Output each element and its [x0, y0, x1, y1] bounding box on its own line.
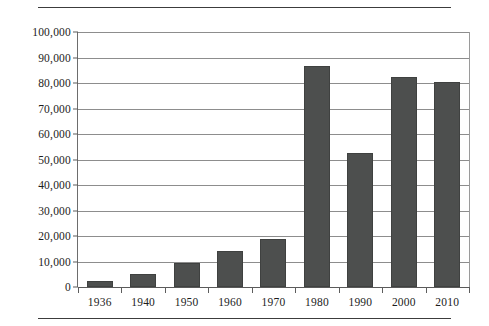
top-horizontal-rule: [38, 7, 451, 8]
x-axis-label: 2000: [392, 296, 416, 308]
y-axis-label: 10,000: [38, 256, 71, 268]
x-axis-tick: [121, 287, 122, 293]
bar-slot: [165, 32, 208, 287]
bar-slot: [382, 32, 425, 287]
y-axis-label: 30,000: [38, 205, 71, 217]
x-axis-tick: [382, 287, 383, 293]
y-axis-label: 80,000: [38, 77, 71, 89]
bar-slot: [339, 32, 382, 287]
bar: [130, 274, 156, 287]
bar: [347, 153, 373, 287]
x-axis-tick: [165, 287, 166, 293]
y-axis-label: 20,000: [38, 230, 71, 242]
y-axis-label: 60,000: [38, 128, 71, 140]
bar-slot: [78, 32, 121, 287]
y-axis-label: 70,000: [38, 103, 71, 115]
x-axis-tick: [208, 287, 209, 293]
x-axis-label: 1950: [175, 296, 199, 308]
y-axis-label: 90,000: [38, 52, 71, 64]
x-axis-label: 1980: [305, 296, 329, 308]
x-axis-tick: [426, 287, 427, 293]
bar: [391, 77, 417, 287]
bottom-horizontal-rule: [38, 318, 451, 319]
bars-group: [78, 32, 469, 287]
x-axis-tick: [469, 287, 470, 293]
bar: [434, 82, 460, 287]
bar: [217, 251, 243, 287]
bar: [87, 281, 113, 287]
x-axis-tick: [78, 287, 79, 293]
y-axis-label: 0: [65, 281, 71, 293]
x-axis-label: 1970: [262, 296, 286, 308]
y-axis-label: 100,000: [32, 26, 71, 38]
bar-slot: [208, 32, 251, 287]
bar: [260, 239, 286, 287]
x-axis-label: 1936: [88, 296, 112, 308]
bar-slot: [426, 32, 469, 287]
bar-slot: [121, 32, 164, 287]
bar: [304, 66, 330, 287]
bar: [174, 263, 200, 287]
chart-page: 010,00020,00030,00040,00050,00060,00070,…: [0, 0, 489, 326]
x-axis-label: 1940: [131, 296, 155, 308]
x-axis-label: 1960: [218, 296, 242, 308]
bar-slot: [295, 32, 338, 287]
bar-slot: [252, 32, 295, 287]
x-axis-label: 1990: [348, 296, 372, 308]
chart-plot-area: 010,00020,00030,00040,00050,00060,00070,…: [77, 32, 470, 287]
y-axis-label: 50,000: [38, 154, 71, 166]
x-axis-tick: [252, 287, 253, 293]
y-axis-label: 40,000: [38, 179, 71, 191]
x-axis-tick: [339, 287, 340, 293]
x-axis-tick: [295, 287, 296, 293]
x-axis-label: 2010: [435, 296, 459, 308]
gridline: [78, 287, 469, 288]
